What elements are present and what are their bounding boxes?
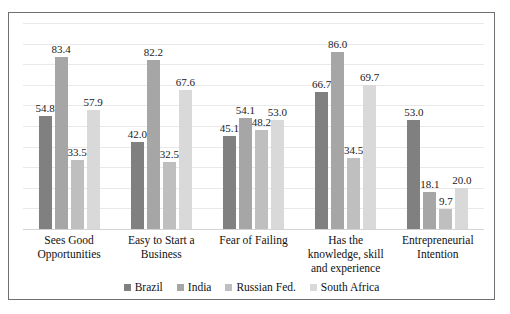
bar-group: 45.154.148.253.0 — [223, 23, 284, 229]
legend-label: Brazil — [135, 281, 163, 293]
bar-value-label: 32.5 — [160, 149, 179, 160]
bar-column: 32.5 — [163, 23, 176, 229]
bar-value-label: 54.1 — [236, 105, 255, 116]
bar-value-label: 53.0 — [404, 107, 423, 118]
bar-value-label: 53.0 — [268, 107, 287, 118]
bar-column: 42.0 — [131, 23, 144, 229]
bar-value-label: 42.0 — [128, 129, 147, 140]
bar — [347, 158, 360, 229]
category-label: Has theknowledge, skilland experience — [302, 233, 390, 283]
bar-group: 54.883.433.557.9 — [39, 23, 100, 229]
bar-column: 69.7 — [363, 23, 376, 229]
bar-column: 66.7 — [315, 23, 328, 229]
bar — [455, 188, 468, 229]
category-label: Sees GoodOpportunities — [25, 233, 113, 283]
category-label: Fear of Failing — [209, 233, 297, 283]
bar — [271, 120, 284, 229]
bar-value-label: 69.7 — [360, 72, 379, 83]
bar — [239, 118, 252, 229]
bar — [55, 57, 68, 229]
legend-item[interactable]: South Africa — [310, 281, 379, 293]
category-axis: Sees GoodOpportunitiesEasy to Start aBus… — [23, 233, 484, 283]
bar — [87, 110, 100, 229]
legend-label: India — [188, 281, 212, 293]
category-label: EntrepreneurialIntention — [394, 233, 482, 283]
bar — [147, 60, 160, 229]
bar-value-label: 67.6 — [176, 77, 195, 88]
bar — [255, 130, 268, 229]
gridline — [23, 229, 484, 230]
bar — [163, 162, 176, 229]
bar — [71, 160, 84, 229]
legend-item[interactable]: India — [177, 281, 212, 293]
bar-column: 67.6 — [179, 23, 192, 229]
bar-group: 53.018.19.720.0 — [407, 23, 468, 229]
bar-column: 54.8 — [39, 23, 52, 229]
chart-figure: 54.883.433.557.942.082.232.567.645.154.1… — [8, 12, 495, 300]
bar-value-label: 57.9 — [83, 97, 102, 108]
bar-value-label: 45.1 — [220, 123, 239, 134]
bar-column: 57.9 — [87, 23, 100, 229]
bar-value-label: 9.7 — [439, 196, 453, 207]
bar — [179, 90, 192, 229]
bar-value-label: 86.0 — [328, 39, 347, 50]
legend-item[interactable]: Brazil — [124, 281, 163, 293]
legend-swatch-icon — [177, 284, 184, 291]
bar-column: 83.4 — [55, 23, 68, 229]
bar-value-label: 66.7 — [312, 79, 331, 90]
bar-column: 82.2 — [147, 23, 160, 229]
bar — [223, 136, 236, 229]
legend-swatch-icon — [310, 284, 317, 291]
bar-column: 45.1 — [223, 23, 236, 229]
bar-group: 42.082.232.567.6 — [131, 23, 192, 229]
chart-legend: BrazilIndiaRussian Fed.South Africa — [9, 281, 494, 293]
bar-column: 34.5 — [347, 23, 360, 229]
bar-column: 18.1 — [423, 23, 436, 229]
legend-swatch-icon — [124, 284, 131, 291]
bar-group: 66.786.034.569.7 — [315, 23, 376, 229]
bar — [131, 142, 144, 229]
bar-value-label: 20.0 — [452, 175, 471, 186]
plot-area: 54.883.433.557.942.082.232.567.645.154.1… — [23, 23, 484, 229]
legend-swatch-icon — [225, 284, 232, 291]
bar-column: 20.0 — [455, 23, 468, 229]
bar — [331, 52, 344, 229]
legend-label: South Africa — [321, 281, 379, 293]
bar-column: 86.0 — [331, 23, 344, 229]
bar-value-label: 83.4 — [51, 44, 70, 55]
bar — [423, 192, 436, 229]
legend-label: Russian Fed. — [236, 281, 295, 293]
bar-value-label: 82.2 — [144, 47, 163, 58]
bar-value-label: 34.5 — [344, 145, 363, 156]
bar-value-label: 48.2 — [252, 117, 271, 128]
bar — [407, 120, 420, 229]
bar-column: 53.0 — [271, 23, 284, 229]
bar-column: 33.5 — [71, 23, 84, 229]
bar — [39, 116, 52, 229]
category-label: Easy to Start aBusiness — [117, 233, 205, 283]
bar-groups: 54.883.433.557.942.082.232.567.645.154.1… — [23, 23, 484, 229]
bar — [363, 85, 376, 229]
bar — [315, 92, 328, 229]
bar-column: 53.0 — [407, 23, 420, 229]
bar-value-label: 18.1 — [420, 179, 439, 190]
bar-column: 48.2 — [255, 23, 268, 229]
bar-value-label: 54.8 — [35, 103, 54, 114]
bar — [439, 209, 452, 229]
bar-column: 9.7 — [439, 23, 452, 229]
bar-column: 54.1 — [239, 23, 252, 229]
legend-item[interactable]: Russian Fed. — [225, 281, 295, 293]
bar-value-label: 33.5 — [67, 147, 86, 158]
